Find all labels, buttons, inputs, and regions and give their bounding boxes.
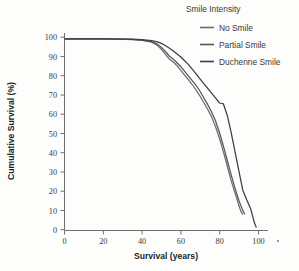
y-tick-label: 40: [49, 149, 57, 158]
x-tick-label: 40: [138, 237, 146, 246]
chart-canvas: 100 90 80 70 60 50 40 30 20 10 0: [0, 0, 299, 271]
y-tick-label: 90: [49, 53, 57, 62]
x-tick-label: 80: [216, 237, 224, 246]
y-tick-label: 80: [49, 72, 57, 81]
legend-label: Partial Smile: [219, 40, 266, 50]
corner-marker: [277, 240, 279, 242]
survival-chart-figure: 100 90 80 70 60 50 40 30 20 10 0: [0, 0, 299, 271]
y-tick-label: 0: [53, 226, 57, 235]
x-tick-label: 20: [99, 237, 107, 246]
x-tick-label: 100: [252, 237, 264, 246]
x-tick-label: 0: [62, 237, 66, 246]
y-tick-label: 60: [49, 110, 57, 119]
x-axis-title: Survival (years): [134, 251, 198, 261]
legend-title: Smile Intensity: [186, 4, 241, 14]
y-axis-title: Cumulative Survival (%): [6, 82, 16, 180]
legend-label: No Smile: [219, 23, 253, 33]
legend-label: Duchenne Smile: [219, 57, 281, 67]
y-tick-label: 10: [49, 207, 57, 216]
y-tick-label: 100: [45, 33, 57, 42]
x-tick-label: 60: [177, 237, 185, 246]
y-tick-label: 50: [49, 130, 57, 139]
y-tick-label: 20: [49, 187, 57, 196]
y-tick-label: 70: [49, 91, 57, 100]
y-tick-label: 30: [49, 168, 57, 177]
